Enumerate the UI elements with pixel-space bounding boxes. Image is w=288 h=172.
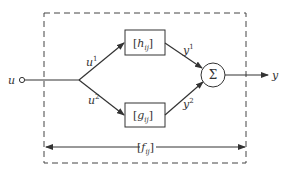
- block-h: [hij]: [125, 30, 165, 55]
- svg-text:[fij]: [fij]: [137, 141, 154, 156]
- branch-lower-line: [79, 80, 124, 115]
- input-terminal-icon: [19, 77, 24, 82]
- summing-junction: Σ: [201, 63, 225, 87]
- svg-text:[gij]: [gij]: [133, 109, 153, 124]
- output-label: y: [271, 69, 279, 82]
- input-label: u: [8, 74, 15, 87]
- block-g: [gij]: [125, 103, 165, 127]
- svg-text:[hij]: [hij]: [133, 37, 153, 52]
- lower-output-label: y2: [182, 97, 194, 111]
- upper-output-label: y1: [182, 43, 194, 57]
- branch-lower-input-label: u2: [88, 93, 100, 107]
- svg-text:Σ: Σ: [209, 68, 217, 82]
- block-diagram: u u1 u2 [hij] [gij] y1 y2 Σ y: [0, 0, 288, 172]
- overall-label: [fij]: [137, 141, 154, 156]
